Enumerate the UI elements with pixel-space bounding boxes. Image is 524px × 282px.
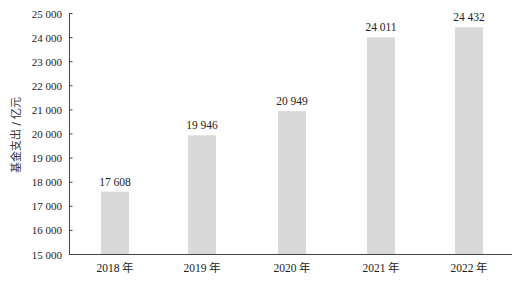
x-tick-label: 2019 年 xyxy=(184,261,221,274)
y-axis-label: 基金支出 / 亿元 xyxy=(9,97,23,174)
bars: 17 60819 94620 94924 01124 432 xyxy=(99,11,485,254)
y-tick-label: 20 000 xyxy=(32,128,63,140)
bar xyxy=(188,135,216,254)
y-tick-label: 23 000 xyxy=(32,56,63,68)
x-axis-labels: 2018 年2019 年2020 年2021 年2022 年 xyxy=(97,261,488,274)
y-tick-label: 18 000 xyxy=(32,176,63,188)
x-tick-label: 2018 年 xyxy=(97,261,134,274)
bar-value-label: 17 608 xyxy=(99,176,131,188)
bar-chart: 15 00016 00017 00018 00019 00020 00021 0… xyxy=(0,0,524,282)
bar xyxy=(101,192,129,255)
y-tick-label: 19 000 xyxy=(32,152,63,164)
bar-value-label: 24 011 xyxy=(365,21,396,33)
bar-value-label: 24 432 xyxy=(453,11,485,23)
bar xyxy=(455,27,483,254)
y-tick-label: 21 000 xyxy=(32,104,63,116)
x-tick-label: 2021 年 xyxy=(363,261,400,274)
bar xyxy=(367,37,395,254)
bar xyxy=(278,111,306,254)
bar-value-label: 19 946 xyxy=(186,119,218,131)
x-tick-label: 2022 年 xyxy=(451,261,488,274)
y-tick-label: 16 000 xyxy=(32,224,63,236)
y-tick-label: 24 000 xyxy=(32,32,63,44)
y-tick-label: 22 000 xyxy=(32,80,63,92)
x-tick-label: 2020 年 xyxy=(274,261,311,274)
y-tick-label: 17 000 xyxy=(32,200,63,212)
y-tick-label: 25 000 xyxy=(32,8,63,20)
y-tick-label: 15 000 xyxy=(32,249,63,261)
y-axis-ticks: 15 00016 00017 00018 00019 00020 00021 0… xyxy=(32,8,73,261)
bar-value-label: 20 949 xyxy=(276,95,308,107)
